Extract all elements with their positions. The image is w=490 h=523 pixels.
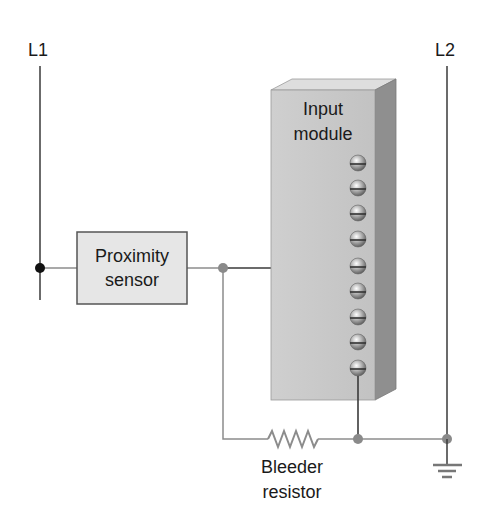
proximity-sensor-box [77, 232, 187, 304]
circuit-diagram [0, 0, 490, 523]
terminal-screw-icon [350, 309, 366, 325]
l2-label: L2 [435, 40, 455, 60]
sensor-output-junction-dot [218, 263, 228, 273]
resistor-symbol [268, 431, 318, 447]
module-top-face [271, 79, 396, 90]
module-label-line1: Input [271, 99, 375, 119]
terminal-screw-icon [350, 283, 366, 299]
terminal-strip [350, 155, 366, 376]
sensor-label-line2: sensor [77, 270, 187, 290]
resistor-label-line1: Bleeder [242, 457, 342, 477]
module-label-line2: module [271, 124, 375, 144]
terminal-screw-icon [350, 155, 366, 171]
terminal-screw-icon [350, 231, 366, 247]
terminal-screw-icon [350, 258, 366, 274]
terminal-screw-icon [350, 205, 366, 221]
module-side-face [375, 79, 396, 400]
l1-label: L1 [28, 40, 48, 60]
ground-icon [433, 439, 462, 477]
terminal-screw-icon [350, 180, 366, 196]
bleeder-branch-wire [223, 268, 268, 439]
resistor-label-line2: resistor [242, 482, 342, 502]
l1-junction-dot [35, 263, 45, 273]
sensor-label-line1: Proximity [77, 246, 187, 266]
terminal-screw-icon [350, 360, 366, 376]
common-junction-dot [353, 434, 363, 444]
terminal-screw-icon [350, 334, 366, 350]
